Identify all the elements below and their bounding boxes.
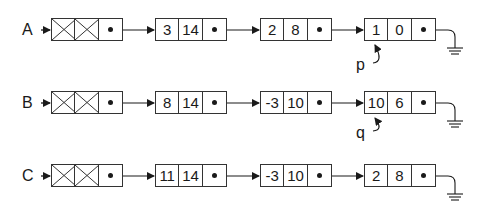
- pointer-dot-icon: [421, 27, 426, 32]
- empty-field-icon: [52, 92, 75, 113]
- exp-field: 6: [388, 92, 411, 113]
- exp-field: 14: [179, 92, 202, 113]
- link-field: [203, 165, 226, 186]
- exp-field: 10: [284, 165, 307, 186]
- pointer-q-arrow: [373, 118, 379, 131]
- exp-field: 14: [179, 165, 202, 186]
- ground-icon: [447, 121, 463, 127]
- exp-field: 8: [388, 165, 411, 186]
- pointer-dot-icon: [212, 173, 217, 178]
- coef-field: 3: [156, 19, 179, 40]
- list-node: 2 8: [260, 18, 332, 41]
- list-node: 8 14: [155, 91, 227, 114]
- list-node: 11 14: [155, 164, 227, 187]
- pointer-label-p: p: [356, 56, 365, 74]
- pointer-dot-icon: [421, 100, 426, 105]
- coef-field: -3: [261, 165, 284, 186]
- link-field: [99, 92, 122, 113]
- coef-field: -3: [261, 92, 284, 113]
- header-node-c: [51, 164, 123, 187]
- list-label-b: B: [22, 95, 33, 111]
- pointer-label-q: q: [356, 124, 365, 142]
- link-field: [99, 165, 122, 186]
- header-node-a: [51, 18, 123, 41]
- coef-field: 2: [261, 19, 284, 40]
- list-label-a: A: [22, 22, 33, 38]
- pointer-dot-icon: [212, 27, 217, 32]
- link-field: [412, 19, 435, 40]
- list-node: 2 8: [364, 164, 436, 187]
- pointer-p-arrow: [373, 45, 379, 63]
- exp-field: 8: [284, 19, 307, 40]
- pointer-dot-icon: [317, 27, 322, 32]
- list-node: 3 14: [155, 18, 227, 41]
- coef-field: 8: [156, 92, 179, 113]
- list-node: 1 0: [364, 18, 436, 41]
- pointer-dot-icon: [317, 100, 322, 105]
- coef-field: 10: [365, 92, 388, 113]
- list-node: 10 6: [364, 91, 436, 114]
- exp-field: 14: [179, 19, 202, 40]
- list-label-c: C: [22, 168, 34, 184]
- link-field: [99, 19, 122, 40]
- pointer-dot-icon: [108, 27, 113, 32]
- pointer-dot-icon: [317, 173, 322, 178]
- link-field: [308, 92, 331, 113]
- empty-field-icon: [52, 19, 75, 40]
- exp-field: 0: [388, 19, 411, 40]
- list-node: -3 10: [260, 91, 332, 114]
- header-node-b: [51, 91, 123, 114]
- link-field: [412, 165, 435, 186]
- list-node: -3 10: [260, 164, 332, 187]
- empty-field-icon: [75, 165, 98, 186]
- link-field: [308, 165, 331, 186]
- empty-field-icon: [75, 19, 98, 40]
- empty-field-icon: [75, 92, 98, 113]
- empty-field-icon: [52, 165, 75, 186]
- link-field: [412, 92, 435, 113]
- coef-field: 2: [365, 165, 388, 186]
- link-field: [203, 92, 226, 113]
- exp-field: 10: [284, 92, 307, 113]
- pointer-dot-icon: [421, 173, 426, 178]
- coef-field: 11: [156, 165, 179, 186]
- ground-icon: [447, 194, 463, 200]
- pointer-dot-icon: [108, 100, 113, 105]
- ground-icon: [447, 48, 463, 54]
- link-field: [203, 19, 226, 40]
- pointer-dot-icon: [108, 173, 113, 178]
- coef-field: 1: [365, 19, 388, 40]
- pointer-dot-icon: [212, 100, 217, 105]
- link-field: [308, 19, 331, 40]
